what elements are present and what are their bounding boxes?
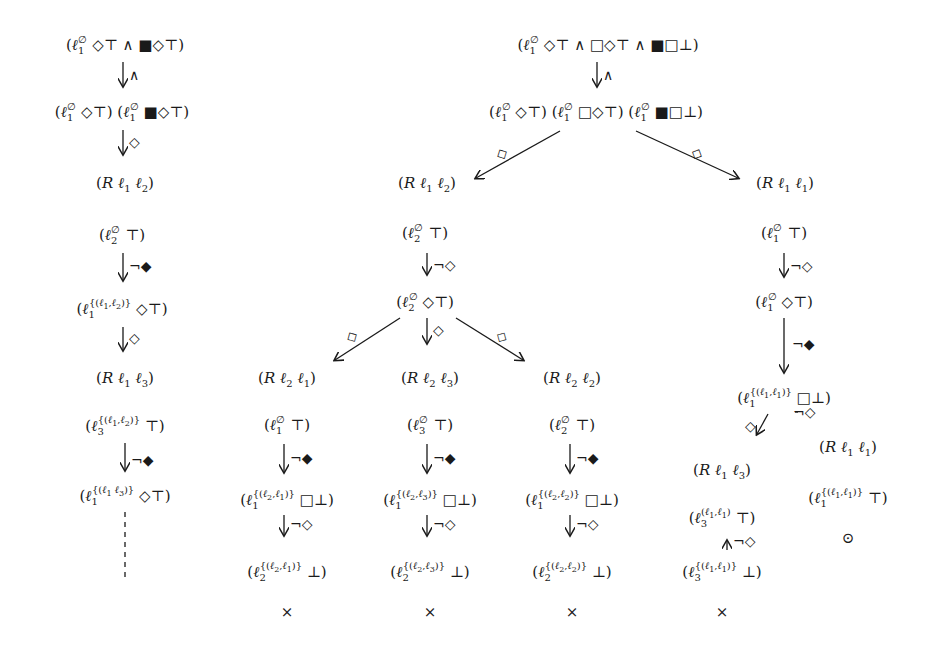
node-F1: (ℓ3(ℓ1,ℓ1) ⊤) bbox=[689, 503, 756, 533]
node-L2: (R ℓ1 ℓ2) bbox=[96, 174, 154, 198]
edge-label-neg-dia: ¬◇ bbox=[290, 516, 313, 532]
node-B3: (ℓ2{(ℓ2,ℓ1)} ⊥) bbox=[247, 557, 326, 587]
edge-label-neg-dia: ¬◇ bbox=[433, 257, 456, 273]
edge-label-neg-bdia: ¬◆ bbox=[131, 452, 154, 468]
node-G0: (R ℓ1 ℓ1) bbox=[819, 438, 877, 462]
edge-label-dia: ◇ bbox=[129, 330, 140, 346]
node-D2: (ℓ1{(ℓ2,ℓ2)} □⊥) bbox=[525, 485, 619, 515]
node-L7: (ℓ1{(ℓ1 ℓ3)} ◇⊤) bbox=[80, 481, 171, 511]
edge-label-and: ∧ bbox=[603, 67, 613, 83]
node-L6: (ℓ3{(ℓ1,ℓ2)} ⊤) bbox=[85, 411, 164, 441]
node-D1: (ℓ2∅ ⊤) bbox=[549, 411, 595, 440]
node-E2: (ℓ1∅ ◇⊤) bbox=[755, 288, 813, 317]
node-A1: (ℓ2∅ ⊤) bbox=[402, 219, 448, 248]
node-E1: (ℓ1∅ ⊤) bbox=[761, 219, 807, 248]
node-L1: (ℓ1∅ ◇⊤) (ℓ1∅ ■◇⊤) bbox=[55, 98, 189, 127]
edge-label-neg-dia: ¬◇ bbox=[733, 533, 756, 549]
edge-label-dia: ◇ bbox=[689, 143, 706, 162]
edge-label-neg-dia: ¬◇ bbox=[793, 404, 816, 420]
edge-label-dia: ◇ bbox=[343, 326, 360, 345]
edge-label-neg-bdia: ¬◆ bbox=[433, 450, 456, 466]
node-L4: (ℓ1{(ℓ1,ℓ2)} ◇⊤) bbox=[77, 294, 168, 324]
node-A0: (R ℓ1 ℓ2) bbox=[398, 174, 456, 198]
edge-label-dia: ◇ bbox=[745, 418, 756, 434]
node-C2: (ℓ1{(ℓ2,ℓ3)} □⊥) bbox=[383, 485, 477, 515]
node-B1: (ℓ1∅ ⊤) bbox=[264, 411, 310, 440]
node-R1: (ℓ1∅ ◇⊤) (ℓ1∅ □◇⊤) (ℓ1∅ ■□⊥) bbox=[489, 98, 703, 127]
edge-label-neg-dia: ¬◇ bbox=[576, 516, 599, 532]
edge-label-neg-dia: ¬◇ bbox=[433, 516, 456, 532]
closed-marker: × bbox=[424, 603, 437, 621]
edge-label-neg-bdia: ¬◆ bbox=[129, 258, 152, 274]
node-L5: (R ℓ1 ℓ3) bbox=[96, 369, 154, 393]
node-C0: (R ℓ2 ℓ3) bbox=[401, 369, 459, 393]
edge-label-neg-bdia: ¬◆ bbox=[290, 450, 313, 466]
edge-label-dia: ◇ bbox=[493, 143, 510, 162]
node-G1: (ℓ1{(ℓ1,ℓ1)} ⊤) bbox=[808, 483, 887, 513]
node-F2: (ℓ3{(ℓ1,ℓ1)} ⊥) bbox=[682, 557, 761, 587]
node-C3: (ℓ2{(ℓ2,ℓ3)} ⊥) bbox=[390, 557, 469, 587]
node-R0: (ℓ1∅ ◇⊤ ∧ □◇⊤ ∧ ■□⊥) bbox=[517, 31, 698, 60]
node-C1: (ℓ3∅ ⊤) bbox=[407, 411, 453, 440]
node-A2: (ℓ2∅ ◇⊤) bbox=[396, 288, 454, 317]
edge-label-neg-bdia: ¬◆ bbox=[576, 450, 599, 466]
edge-label-and: ∧ bbox=[129, 67, 139, 83]
closed-marker: × bbox=[281, 603, 294, 621]
node-D0: (R ℓ2 ℓ2) bbox=[543, 369, 601, 393]
closed-marker: × bbox=[566, 603, 579, 621]
node-L3: (ℓ2∅ ⊤) bbox=[99, 221, 145, 250]
node-D3: (ℓ2{(ℓ2,ℓ2)} ⊥) bbox=[532, 557, 611, 587]
edge-label-neg-dia: ¬◇ bbox=[790, 258, 813, 274]
closed-marker: × bbox=[716, 603, 729, 621]
node-L0: (ℓ1∅ ◇⊤ ∧ ■◇⊤) bbox=[66, 31, 184, 60]
edge-label-dia: ◇ bbox=[494, 326, 511, 345]
edge-label-dia: ◇ bbox=[129, 134, 140, 150]
diagram: (ℓ1∅ ◇⊤ ∧ ■◇⊤) (ℓ1∅ ◇⊤) (ℓ1∅ ■◇⊤) (R ℓ1 … bbox=[0, 0, 943, 659]
edge-label-neg-bdia: ¬◆ bbox=[792, 336, 815, 352]
node-B0: (R ℓ2 ℓ1) bbox=[258, 369, 316, 393]
node-F0: (R ℓ1 ℓ3) bbox=[693, 461, 751, 485]
edge-label-dia: ◇ bbox=[433, 322, 444, 338]
node-E3: (ℓ1{(ℓ1,ℓ1)} □⊥) bbox=[737, 383, 831, 413]
open-marker: ⊙ bbox=[842, 529, 855, 547]
node-B2: (ℓ1{(ℓ2,ℓ1)} □⊥) bbox=[240, 485, 334, 515]
node-E0: (R ℓ1 ℓ1) bbox=[756, 174, 814, 198]
